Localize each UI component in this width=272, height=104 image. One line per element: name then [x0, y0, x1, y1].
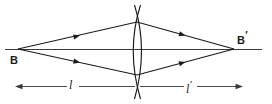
- object-distance-label: l: [69, 79, 72, 91]
- image-point-label-text: B: [237, 34, 245, 46]
- image-distance-arrowhead: [236, 84, 244, 90]
- upper-ray-incident-arrowhead: [73, 33, 80, 40]
- ray-diagram-canvas: [0, 0, 272, 104]
- image-distance-label: l′: [186, 79, 192, 95]
- object-point-label: B: [10, 55, 18, 66]
- lower-ray-incident-arrowhead: [73, 59, 80, 65]
- lens-front-surface: [133, 5, 140, 99]
- image-distance-prime-mark: ′: [189, 78, 191, 90]
- image-point-prime-mark: ′: [245, 30, 248, 41]
- optics-ray-diagram-figure: B B′ l l′: [0, 0, 272, 104]
- object-distance-label-text: l: [69, 78, 72, 92]
- upper-ray-refracted: [137, 22, 234, 49]
- lower-ray-refracted-arrowhead: [179, 59, 187, 66]
- object-point-label-text: B: [10, 54, 18, 66]
- image-point-label: B′: [237, 31, 248, 46]
- object-distance-arrowhead: [15, 84, 23, 90]
- lens-back-surface: [135, 5, 142, 99]
- upper-ray-refracted-arrowhead: [179, 31, 187, 38]
